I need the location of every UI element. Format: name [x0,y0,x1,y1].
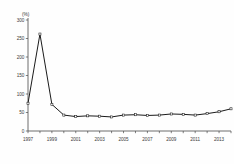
chart-container: (%) 300250200150100500 19971999200120032… [0,0,234,164]
data-point-marker [146,114,148,116]
x-tick-label: 2005 [118,137,129,142]
data-point-marker [99,115,101,117]
data-point-marker [39,33,41,35]
y-tick-label: 300 [17,18,25,23]
data-point-marker [51,103,53,105]
y-axis-unit-label: (%) [22,12,30,17]
x-tick-label: 2011 [190,137,200,142]
data-point-marker [75,116,77,118]
y-tick-label: 100 [17,92,25,97]
data-point-marker [27,102,29,104]
line-chart: (%) 300250200150100500 19971999200120032… [0,0,234,164]
y-tick-label: 250 [17,36,25,41]
x-tick-label: 1999 [47,137,58,142]
x-tick-label: 2001 [71,137,82,142]
x-tick-label: 2007 [142,137,153,142]
y-tick-label: 200 [17,55,25,60]
data-point-marker [182,113,184,115]
data-point-marker [111,116,113,118]
series-path [28,34,231,117]
data-point-marker [170,113,172,115]
data-point-marker [230,108,232,110]
x-axis: 199719992001200320052007200920112013 [23,131,231,142]
data-series [28,34,231,117]
x-tick-label: 1997 [23,137,34,142]
data-point-marker [122,114,124,116]
data-point-marker [206,113,208,115]
unit-label-group: (%) [22,12,30,17]
y-tick-label: 50 [19,110,25,115]
y-axis: 300250200150100500 [17,18,28,134]
x-tick-label: 2009 [166,137,177,142]
data-point-marker [194,114,196,116]
x-tick-label: 2003 [95,137,106,142]
y-tick-label: 150 [17,73,25,78]
data-point-marker [87,115,89,117]
data-point-marker [158,114,160,116]
data-markers [27,33,232,118]
data-point-marker [218,111,220,113]
x-tick-label: 2013 [214,137,225,142]
y-tick-label: 0 [22,129,25,134]
data-point-marker [63,114,65,116]
data-point-marker [134,114,136,116]
